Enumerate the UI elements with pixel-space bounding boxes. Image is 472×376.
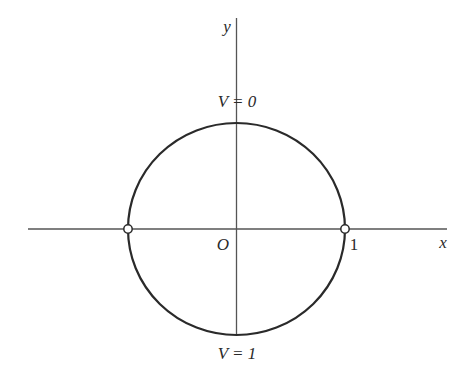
- top-boundary-label: V = 0: [218, 93, 257, 110]
- top-boundary-text: V = 0: [218, 92, 257, 111]
- unit-circle-diagram: y V = 0 O 1 x V = 1: [0, 0, 472, 376]
- bottom-boundary-label: V = 1: [218, 345, 257, 362]
- origin-label: O: [217, 236, 229, 253]
- x-tick-label-1: 1: [350, 236, 359, 253]
- left-point-marker: [124, 225, 132, 233]
- diagram-canvas: [0, 0, 472, 376]
- y-axis-label: y: [223, 18, 231, 35]
- right-point-marker: [341, 225, 349, 233]
- x-axis-label: x: [439, 234, 447, 251]
- bottom-boundary-text: V = 1: [218, 344, 257, 363]
